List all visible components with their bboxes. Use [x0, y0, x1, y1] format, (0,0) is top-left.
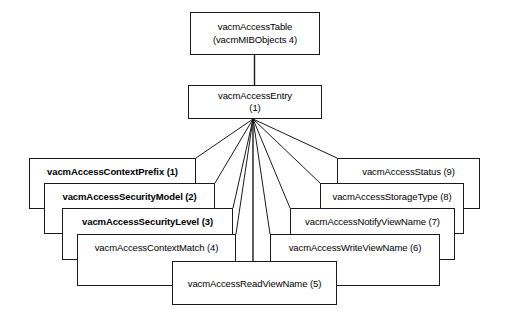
link-entry-to-col4 [236, 119, 253, 234]
node-label-col5: vacmAccessReadViewName (5) [173, 278, 336, 291]
link-entry-to-col1 [196, 119, 253, 158]
link-entry-to-col7 [253, 119, 290, 208]
node-label-col9: vacmAccessStatus (9) [338, 166, 479, 179]
node-label-col7: vacmAccessNotifyViewName (7) [291, 216, 454, 229]
node-table-title: vacmAccessTable [218, 21, 293, 34]
node-vacm-access-read-view-name: vacmAccessReadViewName (5) [172, 261, 337, 305]
link-entry-to-col9 [253, 119, 337, 158]
node-label-col8: vacmAccessStorageType (8) [321, 191, 463, 204]
node-entry-title: vacmAccessEntry [218, 90, 292, 103]
link-entry-to-col2 [215, 119, 253, 183]
link-entry-to-col8 [253, 119, 320, 183]
node-label-col6: vacmAccessWriteViewName (6) [271, 242, 439, 255]
node-table-parent-ref: (vacmMIBObjects 4) [213, 34, 297, 47]
node-vacm-access-entry: vacmAccessEntry (1) [188, 85, 322, 119]
node-entry-index: (1) [249, 102, 260, 115]
vacm-access-table-diagram: vacmAccessTable (vacmMIBObjects 4) vacmA… [0, 0, 508, 324]
node-label-col4: vacmAccessContextMatch (4) [78, 242, 235, 255]
node-vacm-access-table: vacmAccessTable (vacmMIBObjects 4) [190, 12, 320, 55]
link-entry-to-col3 [233, 119, 253, 208]
node-label-col3: vacmAccessSecurityLevel (3) [63, 216, 232, 229]
node-label-col2: vacmAccessSecurityModel (2) [45, 191, 214, 204]
link-entry-to-col6 [253, 119, 270, 234]
node-label-col1: vacmAccessContextPrefix (1) [30, 166, 195, 179]
